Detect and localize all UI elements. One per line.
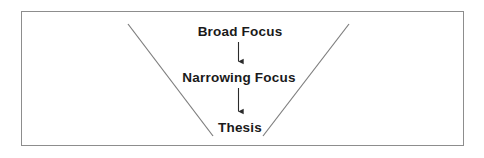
node-label-narrowing-focus: Narrowing Focus [182,71,295,85]
diagram-canvas: Broad Focus Narrowing Focus Thesis [0,0,484,158]
node-label-thesis: Thesis [218,121,262,135]
node-label-broad-focus: Broad Focus [198,25,283,39]
